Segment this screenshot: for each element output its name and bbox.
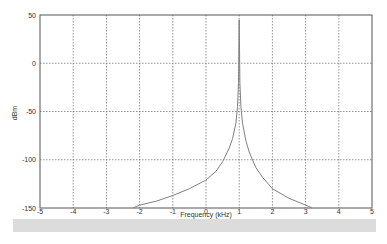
y-tick-label: 50 — [28, 12, 36, 19]
y-tick-label: -100 — [22, 156, 36, 163]
x-tick-label: 5 — [370, 208, 374, 215]
y-tick-labels: 500-50-100-150 — [22, 12, 36, 212]
y-tick-label: 0 — [32, 60, 36, 67]
x-tick-label: -5 — [37, 208, 43, 215]
x-tick-label: 3 — [304, 208, 308, 215]
y-axis-label: dBm — [11, 106, 18, 121]
spectrum-chart: -5-4-3-2-1012345 500-50-100-150 Frequenc… — [0, 0, 387, 244]
spectrum-line — [133, 20, 312, 208]
grid-lines — [40, 15, 372, 208]
y-tick-label: -150 — [22, 205, 36, 212]
x-tick-label: -1 — [170, 208, 176, 215]
x-tick-label: 1 — [237, 208, 241, 215]
status-band — [13, 219, 376, 232]
x-tick-label: -2 — [136, 208, 142, 215]
x-tick-label: 4 — [337, 208, 341, 215]
x-tick-label: -3 — [103, 208, 109, 215]
x-tick-label: 2 — [270, 208, 274, 215]
x-tick-label: -4 — [70, 208, 76, 215]
y-tick-label: -50 — [26, 108, 36, 115]
x-axis-label: Frequency (kHz) — [180, 211, 232, 219]
